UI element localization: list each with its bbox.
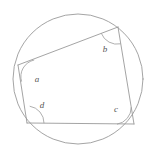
- angle-arc-b: [101, 33, 120, 44]
- angle-label-a: a: [35, 74, 40, 84]
- circumcircle: [13, 14, 143, 144]
- angle-arc-c: [117, 107, 131, 124]
- angle-label-c: c: [114, 104, 118, 114]
- angle-label-d: d: [40, 100, 45, 110]
- angle-label-b: b: [103, 44, 108, 54]
- figure-canvas: a b c d: [0, 0, 154, 160]
- edge-bottom-left-to-left: [18, 65, 27, 123]
- geometry-figure: a b c d: [0, 0, 154, 160]
